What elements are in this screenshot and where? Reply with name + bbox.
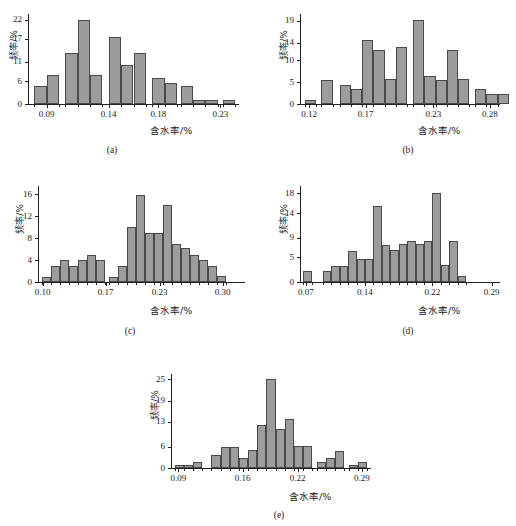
x-axis-line-d <box>300 282 500 283</box>
histogram-bar <box>136 195 145 282</box>
x-tick-minor <box>357 282 358 285</box>
y-tick-e <box>168 422 172 423</box>
x-tick-label: 0.17 <box>88 288 124 297</box>
x-tick-minor <box>305 104 306 107</box>
y-tick-c <box>35 216 39 217</box>
y-tick-d <box>297 193 301 194</box>
y-axis-label-b: 频率/% <box>279 23 289 67</box>
x-tick-minor <box>223 104 224 107</box>
x-tick-minor <box>294 468 295 471</box>
x-tick-minor <box>344 468 345 471</box>
histogram-bar <box>60 260 69 282</box>
x-tick-minor <box>348 282 349 285</box>
x-tick-major <box>158 104 159 108</box>
x-tick-label: 0.23 <box>142 288 178 297</box>
y-tick-label: 0 <box>0 278 32 287</box>
x-tick-minor <box>172 282 173 285</box>
x-tick-minor <box>65 104 66 107</box>
x-tick-minor <box>239 468 240 471</box>
x-tick-minor <box>385 104 386 107</box>
x-tick-minor <box>447 104 448 107</box>
x-tick-label: 0.12 <box>291 110 327 119</box>
x-tick-minor <box>349 468 350 471</box>
x-tick-major <box>47 104 48 108</box>
x-tick-minor <box>416 282 417 285</box>
x-tick-label: 0.07 <box>288 288 324 297</box>
histogram-bar <box>305 100 316 104</box>
histogram-bar <box>127 227 136 282</box>
y-tick-c <box>35 194 39 195</box>
y-tick-label: 6 <box>0 77 22 86</box>
x-axis-line-e <box>171 468 371 469</box>
histogram-bar <box>413 20 424 104</box>
x-axis-label-d: 含水率/% <box>418 306 460 316</box>
y-tick-d <box>297 282 301 283</box>
x-tick-minor <box>498 104 499 107</box>
x-tick-label: 0.14 <box>347 288 383 297</box>
x-tick-minor <box>78 104 79 107</box>
x-tick-minor <box>154 282 155 285</box>
x-tick-minor <box>181 282 182 285</box>
x-tick-label: 0.29 <box>474 288 510 297</box>
histogram-bar <box>199 260 208 282</box>
x-tick-label: 0.22 <box>414 288 450 297</box>
x-tick-minor <box>373 282 374 285</box>
histogram-bar <box>335 451 344 468</box>
histogram-bar <box>230 447 239 468</box>
y-tick-b <box>297 104 301 105</box>
x-tick-minor <box>218 104 219 107</box>
x-tick-major <box>243 468 244 472</box>
y-axis-label-a: 频率/% <box>9 23 19 67</box>
y-tick-label: 6 <box>129 442 165 451</box>
histogram-bar <box>447 50 458 104</box>
x-tick-minor <box>208 282 209 285</box>
histogram-bar <box>317 462 326 468</box>
histogram-bar <box>181 86 193 104</box>
x-axis-label-a: 含水率/% <box>150 126 192 136</box>
histogram-bar <box>416 244 424 282</box>
x-tick-major <box>492 282 493 286</box>
x-tick-minor <box>326 468 327 471</box>
x-tick-label: 0.30 <box>205 288 241 297</box>
x-tick-minor <box>469 104 470 107</box>
histogram-bar <box>458 276 466 282</box>
x-tick-minor <box>163 282 164 285</box>
y-tick-a <box>25 104 29 105</box>
x-tick-minor <box>190 282 191 285</box>
y-tick-a <box>25 62 29 63</box>
histogram-bar <box>436 80 447 104</box>
x-tick-minor <box>78 282 79 285</box>
x-tick-minor <box>358 468 359 471</box>
histogram-bar <box>34 86 46 104</box>
x-tick-minor <box>266 468 267 471</box>
x-tick-minor <box>303 468 304 471</box>
histogram-bar <box>424 241 432 282</box>
y-tick-b <box>297 60 301 61</box>
x-tick-minor <box>449 282 450 285</box>
histogram-bar <box>385 79 396 104</box>
x-tick-major <box>490 104 491 108</box>
x-tick-minor <box>175 468 176 471</box>
histogram-bar <box>407 241 415 282</box>
histogram-panel-d: 05914180.070.140.220.29频率/%含水率/%(d) <box>258 170 516 345</box>
histogram-bar <box>109 37 121 104</box>
histogram-bar <box>326 458 335 468</box>
x-tick-label: 0.17 <box>348 110 384 119</box>
y-tick-e <box>168 468 172 469</box>
x-tick-minor <box>248 468 249 471</box>
x-tick-label: 0.23 <box>202 110 238 119</box>
histogram-bar <box>193 462 202 468</box>
panel-caption-a: (a) <box>92 145 132 155</box>
histogram-bar <box>96 260 105 282</box>
y-tick-e <box>168 401 172 402</box>
y-tick-label: 4 <box>0 256 32 265</box>
x-tick-minor <box>211 468 212 471</box>
histogram-bar <box>365 259 373 282</box>
x-tick-minor <box>193 468 194 471</box>
histogram-bar <box>351 89 362 104</box>
x-tick-minor <box>362 104 363 107</box>
histogram-bar <box>340 85 351 104</box>
histogram-bar <box>390 250 398 282</box>
histogram-bar <box>163 205 172 282</box>
x-tick-minor <box>109 282 110 285</box>
